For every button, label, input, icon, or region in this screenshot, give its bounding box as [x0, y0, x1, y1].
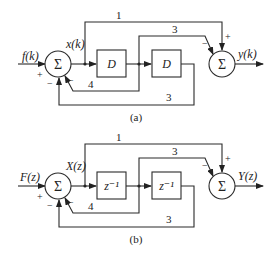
- diagram-a: f(k) + Σ x(k) 1 + D 3 − 4 − D 3 −: [18, 9, 263, 124]
- gain-direct: 1: [116, 131, 122, 143]
- sum1-input-sign: +: [37, 191, 43, 202]
- block2-label: D: [161, 57, 171, 71]
- gain-4: 4: [88, 78, 94, 90]
- gain-3-lower: 3: [166, 91, 172, 103]
- input-label: F(z): [19, 170, 40, 184]
- sum1-input-sign: +: [37, 69, 43, 80]
- sum2-minus-sign: −: [202, 160, 208, 171]
- caption-a: (a): [130, 111, 143, 124]
- sum1-minus-sign-4: −: [68, 75, 74, 86]
- block2-label: z⁻¹: [158, 179, 174, 193]
- input-label: f(k): [22, 49, 39, 63]
- gain-3-upper: 3: [172, 145, 178, 157]
- sum1-symbol: Σ: [54, 179, 62, 194]
- block1-label: D: [106, 57, 116, 71]
- diagram-b: F(z) + Σ X(z) 1 + z⁻¹ 3 − 4 − z⁻¹ 3 − Σ …: [18, 131, 263, 246]
- state-label: X(z): [65, 159, 86, 173]
- block-diagrams: f(k) + Σ x(k) 1 + D 3 − 4 − D 3 −: [0, 0, 272, 258]
- caption-b: (b): [130, 233, 143, 246]
- sum1-symbol: Σ: [54, 57, 62, 72]
- sum2-symbol: Σ: [218, 179, 226, 194]
- gain-4: 4: [88, 200, 94, 212]
- sum1-minus-sign-3: −: [47, 78, 53, 89]
- gain-3-upper: 3: [172, 23, 178, 35]
- sum2-plus-sign: +: [225, 31, 231, 42]
- output-label: y(k): [237, 47, 257, 61]
- state-label: x(k): [65, 37, 85, 51]
- block1-label: z⁻¹: [103, 179, 119, 193]
- sum1-minus-sign-4: −: [68, 197, 74, 208]
- sum2-minus-sign: −: [202, 38, 208, 49]
- sum2-symbol: Σ: [218, 57, 226, 72]
- gain-3-lower: 3: [166, 213, 172, 225]
- gain-direct: 1: [116, 9, 122, 21]
- sum1-minus-sign-3: −: [47, 200, 53, 211]
- sum2-plus-sign: +: [225, 153, 231, 164]
- output-label: Y(z): [238, 169, 257, 183]
